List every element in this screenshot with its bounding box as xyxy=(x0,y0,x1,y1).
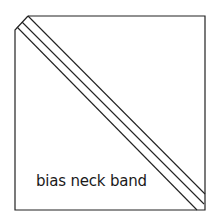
bias-line-top xyxy=(28,16,205,194)
diagram-label: bias neck band xyxy=(36,172,147,190)
